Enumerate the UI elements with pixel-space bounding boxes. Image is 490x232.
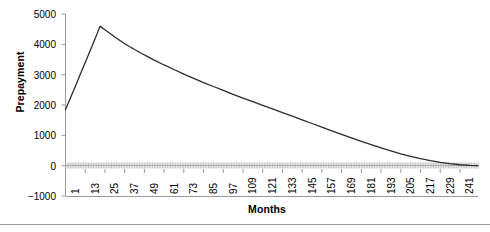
- y-tick-marks: [62, 14, 66, 196]
- x-axis-title: Months: [0, 203, 490, 215]
- prepayment-line-series: [66, 26, 479, 166]
- chart-figure: Prepayment 500040003000200010000−1000 11…: [0, 0, 490, 232]
- plot-area: [0, 0, 490, 232]
- x-major-tick-marks: [66, 169, 460, 173]
- footer-rule: [0, 224, 490, 225]
